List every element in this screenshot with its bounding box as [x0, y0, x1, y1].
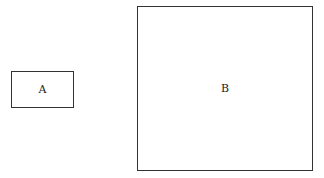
box-b: B [137, 6, 313, 171]
box-b-label: B [221, 82, 229, 95]
box-a-label: A [39, 83, 47, 96]
box-a: A [11, 71, 74, 108]
